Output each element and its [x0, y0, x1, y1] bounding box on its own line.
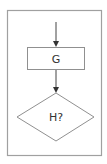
process-node-label: G: [52, 53, 61, 66]
flowchart-canvas: G H?: [0, 0, 107, 164]
decision-node-label: H?: [49, 111, 63, 124]
process-node-g: G: [28, 48, 85, 70]
